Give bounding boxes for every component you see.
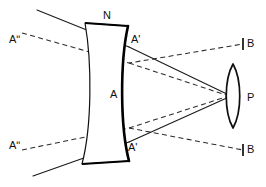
converging-lens-body bbox=[226, 64, 240, 128]
label-lens-right-top: A' bbox=[131, 33, 140, 45]
optics-diagram: N A' A A' Aʺ Aʺ B B P bbox=[0, 0, 266, 187]
label-converging-lens: P bbox=[247, 91, 254, 103]
biconcave-lens bbox=[82, 23, 129, 164]
converging-lens bbox=[226, 64, 240, 128]
label-group: N A' A A' Aʺ Aʺ B B P bbox=[9, 9, 254, 155]
dashed-ray-group bbox=[22, 33, 243, 150]
label-source-bottom-left: Aʺ bbox=[9, 139, 20, 151]
optics-ray-diagram-canvas: N A' A A' Aʺ Aʺ B B P bbox=[0, 0, 266, 187]
upper-axis-extension bbox=[129, 63, 229, 96]
label-source-top-left: Aʺ bbox=[9, 33, 20, 45]
label-lens-center: A bbox=[110, 88, 118, 100]
label-lens-right-bottom: A' bbox=[128, 141, 137, 153]
label-lens-top: N bbox=[103, 9, 111, 21]
label-image-top-right: B bbox=[247, 37, 254, 49]
lower-refracted-ray bbox=[129, 97, 229, 142]
label-image-bottom-right: B bbox=[247, 143, 254, 155]
lower-axis-extension bbox=[129, 96, 229, 128]
